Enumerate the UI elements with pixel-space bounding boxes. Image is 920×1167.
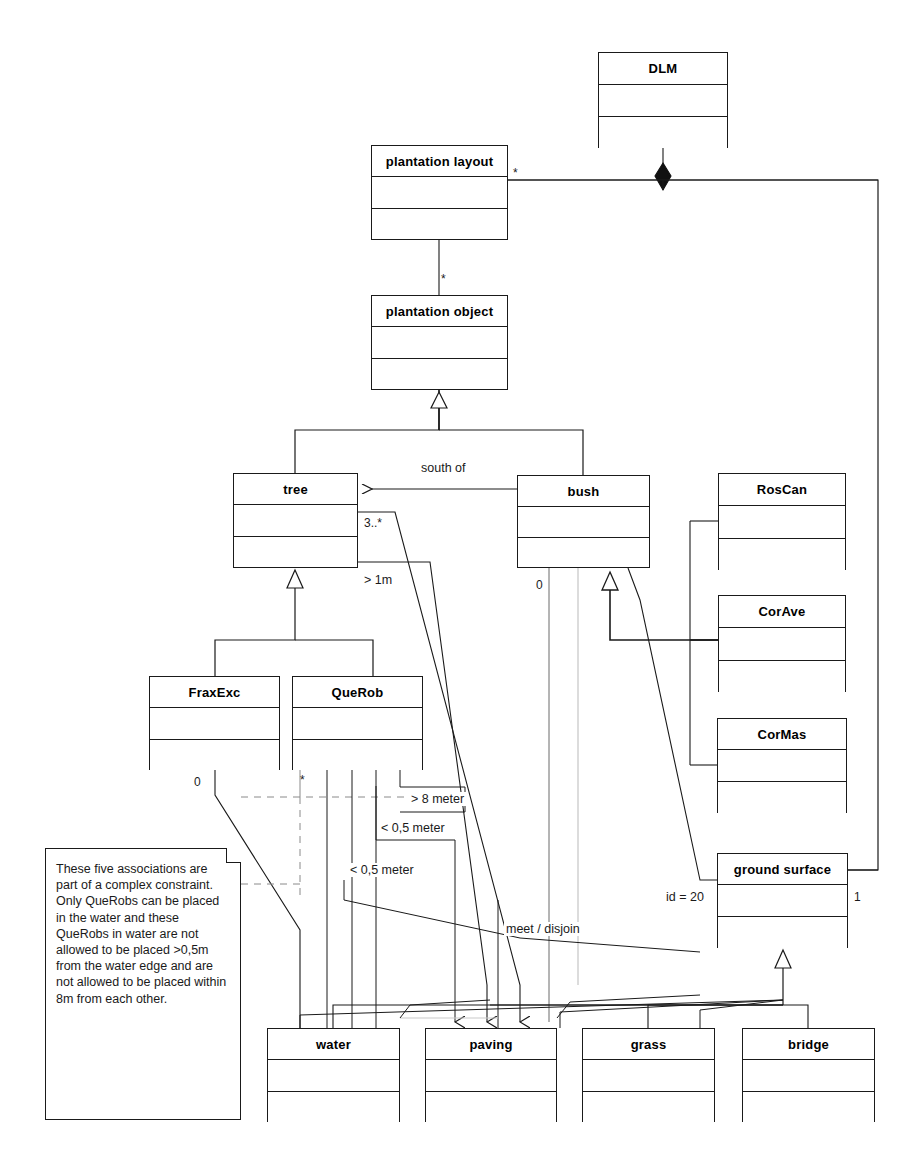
multiplicity-ground-surface-one: 1 [854,890,861,904]
class-attrs-tree [234,505,357,537]
class-ops-querob [293,740,422,770]
class-ops-grass [583,1092,714,1122]
class-ops-tree [234,537,357,567]
class-attrs-plantation-layout [372,177,507,209]
uml-diagram-canvas: DLM plantation layout plantation object … [0,0,920,1167]
class-attrs-querob [293,708,422,740]
class-box-roscan[interactable]: RosCan [718,473,846,570]
constraint-label-id-20: id = 20 [664,890,706,904]
class-ops-fraxexc [150,740,279,770]
class-name-querob: QueRob [293,677,422,708]
class-name-paving: paving [426,1029,556,1060]
class-name-bridge: bridge [743,1029,874,1060]
class-name-roscan: RosCan [719,474,845,506]
class-box-tree[interactable]: tree [233,473,358,568]
class-ops-ground-surface [718,917,847,948]
class-name-fraxexc: FraxExc [150,677,279,708]
note-text: These five associations are part of a co… [56,861,232,1007]
multiplicity-layout-dlm: * [513,166,518,180]
class-attrs-bush [518,507,649,538]
multiplicity-layout-object: * [441,272,446,286]
class-attrs-grass [583,1060,714,1092]
class-name-bush: bush [518,476,649,507]
constraint-label-meet-disjoin: meet / disjoin [504,922,582,936]
class-name-plantation-object: plantation object [372,296,507,327]
class-name-grass: grass [583,1029,714,1060]
class-attrs-fraxexc [150,708,279,740]
constraint-label-less-half-meter-upper: < 0,5 meter [379,821,447,835]
class-attrs-paving [426,1060,556,1092]
class-attrs-corave [719,628,845,661]
class-box-querob[interactable]: QueRob [292,676,423,770]
class-box-plantation-layout[interactable]: plantation layout [371,145,508,240]
constraint-label-greater-1m: > 1m [364,573,392,587]
class-ops-plantation-object [372,359,507,389]
constraint-label-less-half-meter-lower: < 0,5 meter [348,863,416,877]
class-attrs-plantation-object [372,327,507,359]
class-ops-roscan [719,539,845,570]
class-box-bush[interactable]: bush [517,475,650,568]
class-name-tree: tree [234,474,357,505]
class-attrs-water [268,1060,399,1092]
class-box-fraxexc[interactable]: FraxExc [149,676,280,770]
multiplicity-querob-star: * [300,773,305,787]
class-box-corave[interactable]: CorAve [718,595,846,692]
multiplicity-bush-zero: 0 [536,578,543,592]
class-attrs-cormas [718,750,846,782]
class-ops-bridge [743,1092,874,1122]
class-box-water[interactable]: water [267,1028,400,1122]
class-name-dlm: DLM [599,53,727,85]
class-name-plantation-layout: plantation layout [372,146,507,177]
class-name-corave: CorAve [719,596,845,628]
constraint-label-greater-8-meter: > 8 meter [409,792,466,806]
class-box-grass[interactable]: grass [582,1028,715,1122]
class-box-cormas[interactable]: CorMas [717,718,847,813]
class-box-dlm[interactable]: DLM [598,52,728,148]
class-box-ground-surface[interactable]: ground surface [717,853,848,948]
multiplicity-fraxexc-zero: 0 [194,775,201,789]
class-ops-paving [426,1092,556,1122]
class-box-paving[interactable]: paving [425,1028,557,1122]
class-attrs-roscan [719,506,845,539]
class-ops-water [268,1092,399,1122]
class-ops-cormas [718,782,846,813]
class-name-water: water [268,1029,399,1060]
multiplicity-tree-three-or-more: 3..* [364,516,382,530]
class-ops-bush [518,538,649,567]
note-fold-corner [226,848,241,863]
class-ops-corave [719,661,845,692]
class-ops-plantation-layout [372,209,507,239]
association-label-south-of: south of [421,461,465,475]
class-name-ground-surface: ground surface [718,854,847,885]
class-attrs-bridge [743,1060,874,1092]
class-box-bridge[interactable]: bridge [742,1028,875,1122]
class-name-cormas: CorMas [718,719,846,750]
class-attrs-ground-surface [718,885,847,917]
class-attrs-dlm [599,85,727,117]
class-box-plantation-object[interactable]: plantation object [371,295,508,390]
class-ops-dlm [599,117,727,148]
constraint-note[interactable]: These five associations are part of a co… [45,848,241,1120]
